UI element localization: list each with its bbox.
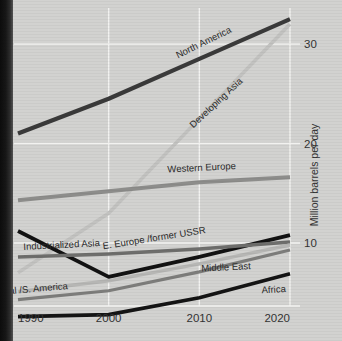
y-axis-title: Million barrels per day (308, 123, 320, 226)
left-dark-band (0, 0, 13, 341)
x-tick-1990: 1990 (18, 312, 44, 324)
x-tick-2000: 2000 (96, 312, 122, 324)
y-tick-10: 10 (304, 237, 317, 249)
chart-figure: North AmericaDeveloping AsiaWestern Euro… (0, 0, 342, 341)
x-tick-2010: 2010 (187, 312, 213, 324)
series-label-africa: Africa (261, 283, 287, 295)
x-tick-2020: 2020 (264, 312, 290, 324)
y-tick-30: 30 (304, 38, 317, 50)
line-chart-canvas: North AmericaDeveloping AsiaWestern Euro… (0, 0, 342, 341)
